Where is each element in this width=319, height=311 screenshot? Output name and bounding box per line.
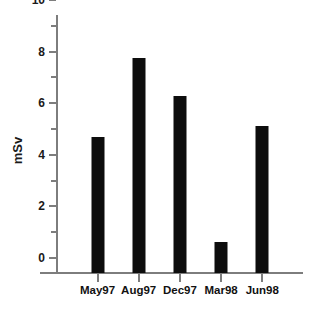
y-axis-tick-label: 6: [38, 96, 45, 110]
plot-area: [56, 15, 303, 273]
x-axis-tick: [97, 274, 99, 282]
y-axis-tick-major: [49, 154, 56, 156]
x-axis-tick: [220, 274, 222, 282]
x-axis-tick: [261, 274, 263, 282]
x-axis-tick: [179, 274, 181, 282]
y-axis-tick-label: 4: [38, 148, 45, 162]
bar: [215, 242, 228, 273]
y-axis-tick-label: 0: [38, 251, 45, 265]
x-axis-tick-label: Mar98: [204, 284, 237, 296]
y-axis-tick-label: 8: [38, 45, 45, 59]
x-axis-tick-label: Dec97: [163, 284, 197, 296]
y-axis-tick-major: [49, 102, 56, 104]
bar: [132, 58, 145, 273]
y-axis-tick-major: [49, 257, 56, 259]
bar: [173, 96, 186, 273]
x-axis-tick: [138, 274, 140, 282]
bar: [91, 137, 104, 273]
bar: [256, 126, 269, 273]
y-axis-tick-major: [49, 51, 56, 53]
y-axis-ticks: 0246810: [0, 0, 56, 258]
x-axis-tick-label: Jun98: [246, 284, 279, 296]
y-axis-tick-major: [49, 205, 56, 207]
y-axis-tick-label: 2: [38, 199, 45, 213]
x-axis-tick-label: Aug97: [121, 284, 156, 296]
bar-chart: mSv 0246810 May97Aug97Dec97Mar98Jun98: [0, 0, 319, 311]
y-axis-tick-major: [49, 0, 56, 1]
y-axis-tick-label: 10: [32, 0, 45, 7]
x-axis-tick-label: May97: [80, 284, 115, 296]
